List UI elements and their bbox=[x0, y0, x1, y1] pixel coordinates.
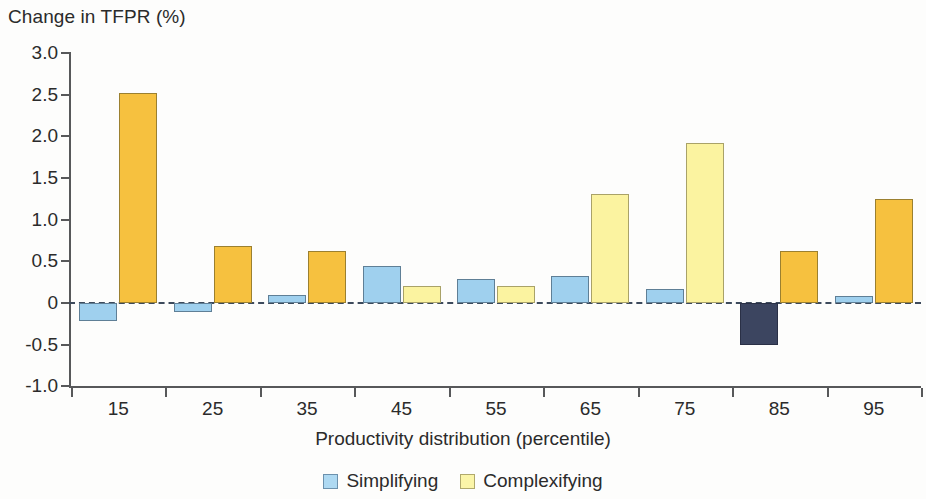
x-axis-line bbox=[69, 386, 921, 388]
bar bbox=[363, 266, 401, 303]
bar bbox=[740, 303, 778, 345]
bar bbox=[497, 286, 535, 303]
x-tick-mark bbox=[260, 388, 262, 397]
x-tick-label: 15 bbox=[75, 398, 161, 420]
x-tick-mark bbox=[354, 388, 356, 397]
y-tick-mark bbox=[61, 135, 70, 137]
bar bbox=[457, 279, 495, 303]
x-tick-mark bbox=[638, 388, 640, 397]
y-tick-label: 0 bbox=[0, 292, 58, 314]
y-tick-label: 2.5 bbox=[0, 84, 58, 106]
legend-item[interactable]: Simplifying bbox=[323, 470, 438, 492]
legend-swatch-icon bbox=[460, 474, 475, 489]
y-tick-label: 1.5 bbox=[0, 167, 58, 189]
bar bbox=[646, 289, 684, 303]
y-tick-mark bbox=[61, 385, 70, 387]
y-tick-label: 0.5 bbox=[0, 250, 58, 272]
y-tick-label: -0.5 bbox=[0, 334, 58, 356]
x-axis-caption: Productivity distribution (percentile) bbox=[0, 428, 926, 450]
bar bbox=[214, 246, 252, 303]
x-tick-mark bbox=[921, 388, 923, 397]
y-tick-mark bbox=[61, 219, 70, 221]
y-tick-label: -1.0 bbox=[0, 375, 58, 397]
y-tick-mark bbox=[61, 94, 70, 96]
x-tick-label: 35 bbox=[264, 398, 350, 420]
y-tick-label: 3.0 bbox=[0, 42, 58, 64]
x-tick-mark bbox=[165, 388, 167, 397]
chart-figure: Change in TFPR (%) 3.02.52.01.51.00.50-0… bbox=[0, 0, 926, 499]
bar bbox=[308, 251, 346, 303]
y-tick-mark bbox=[61, 177, 70, 179]
bar bbox=[268, 295, 306, 303]
chart-legend: SimplifyingComplexifying bbox=[0, 470, 926, 492]
x-tick-mark bbox=[449, 388, 451, 397]
y-tick-mark bbox=[61, 344, 70, 346]
y-tick-label: 2.0 bbox=[0, 125, 58, 147]
bar bbox=[119, 93, 157, 303]
bar bbox=[780, 251, 818, 303]
x-tick-label: 45 bbox=[359, 398, 445, 420]
legend-label: Simplifying bbox=[346, 470, 438, 492]
x-tick-label: 55 bbox=[453, 398, 539, 420]
bar bbox=[403, 286, 441, 303]
legend-item[interactable]: Complexifying bbox=[460, 470, 602, 492]
x-tick-label: 75 bbox=[642, 398, 728, 420]
bar bbox=[875, 199, 913, 303]
x-tick-label: 85 bbox=[736, 398, 822, 420]
x-tick-mark bbox=[71, 388, 73, 397]
x-tick-mark bbox=[732, 388, 734, 397]
legend-label: Complexifying bbox=[483, 470, 602, 492]
bar bbox=[591, 194, 629, 303]
x-tick-mark bbox=[543, 388, 545, 397]
legend-swatch-icon bbox=[323, 474, 338, 489]
x-tick-label: 25 bbox=[170, 398, 256, 420]
x-tick-mark bbox=[827, 388, 829, 397]
bar bbox=[835, 296, 873, 303]
y-tick-mark bbox=[61, 52, 70, 54]
x-tick-label: 65 bbox=[547, 398, 633, 420]
y-tick-mark bbox=[61, 260, 70, 262]
y-tick-label: 1.0 bbox=[0, 209, 58, 231]
bar bbox=[174, 303, 212, 312]
x-tick-label: 95 bbox=[831, 398, 917, 420]
chart-title: Change in TFPR (%) bbox=[8, 6, 186, 28]
bar bbox=[551, 276, 589, 303]
bar bbox=[686, 143, 724, 303]
bar bbox=[79, 303, 117, 321]
